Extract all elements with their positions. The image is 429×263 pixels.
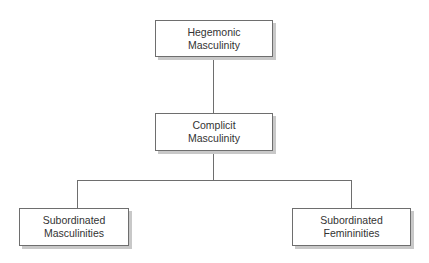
node-subordinated-femininities: Subordinated Femininities [292, 208, 411, 246]
node-subordinated-masculinities: Subordinated Masculinities [19, 208, 129, 246]
node-label-line2: Masculinity [188, 132, 240, 145]
node-label-line1: Hegemonic [187, 26, 240, 39]
node-label-line2: Masculinity [188, 39, 240, 52]
node-label-line1: Subordinated [320, 214, 382, 227]
node-label-line1: Complicit [192, 119, 235, 132]
connector-complicit-down [213, 151, 214, 180]
connector-horizontal-branch [77, 180, 352, 181]
node-label-line2: Masculinities [44, 227, 104, 240]
node-label-line2: Femininities [323, 227, 379, 240]
connector-to-subordinated-femininities [351, 180, 352, 208]
connector-hegemonic-complicit [213, 57, 214, 113]
connector-to-subordinated-masculinities [77, 180, 78, 208]
node-hegemonic-masculinity: Hegemonic Masculinity [155, 20, 273, 57]
node-label-line1: Subordinated [43, 214, 105, 227]
node-complicit-masculinity: Complicit Masculinity [155, 113, 273, 151]
